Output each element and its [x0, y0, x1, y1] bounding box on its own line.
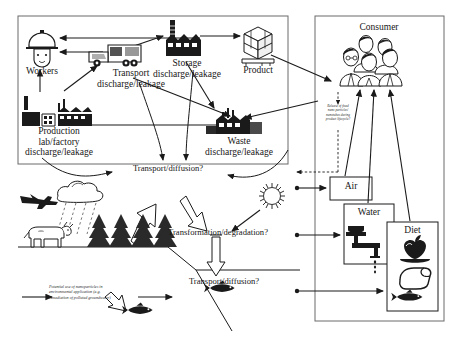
airplane-icon [20, 194, 58, 209]
worker-helmet-icon [26, 30, 58, 67]
workers-label: Workers [8, 66, 76, 77]
remediation-note-annotation: Potential use of nanoparticles in enviro… [49, 284, 139, 300]
production-label: Production lab/factory discharge/leakage [0, 126, 118, 158]
product-label: Product [228, 65, 288, 76]
waste-plant-icon [206, 108, 262, 134]
transport-diffusion-water-label: Transport/diffusion? [166, 277, 282, 287]
transformation-degradation-label: Transformation/degradation? [148, 228, 288, 238]
transport-diffusion-air-label: Transport/diffusion? [110, 164, 226, 174]
sun-icon [259, 183, 285, 209]
waste-label: Waste discharge/leakage [187, 136, 291, 157]
arrow-diet-to-consumer [390, 90, 410, 221]
release-note-annotation: Release of fixed nano particles/ nanotub… [316, 104, 360, 121]
product-box-icon [242, 27, 274, 66]
hollow-arrow-transformation [180, 196, 207, 231]
cow-icon [24, 222, 73, 247]
diet-label: Diet [387, 225, 438, 236]
factory-icon [22, 96, 92, 126]
consumer-title: Consumer [329, 22, 429, 33]
warehouse-icon [166, 20, 201, 56]
arrow-consumer-to-waste [245, 101, 318, 118]
water-label: Water [344, 207, 394, 218]
ground-line-slope [168, 247, 196, 270]
figure-canvas: Workers Production lab/factory discharge… [0, 0, 456, 349]
rain-cloud-icon [57, 181, 102, 202]
air-label: Air [330, 181, 372, 192]
truck-icon [89, 45, 141, 67]
storage-label: Storage discharge/leakage [137, 58, 237, 79]
arrow-production-to-airdiffusion [42, 158, 112, 176]
arrow-transport-to-airdiffusion [139, 82, 163, 160]
arrow-air-to-consumer [345, 90, 360, 176]
people-group-icon [340, 36, 402, 87]
